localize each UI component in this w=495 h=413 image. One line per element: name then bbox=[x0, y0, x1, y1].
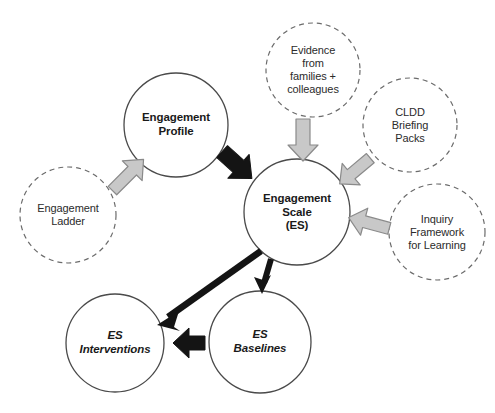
node-circle-es-interventions[interactable] bbox=[66, 294, 164, 392]
arrow-inquiry-to-scale bbox=[345, 204, 393, 242]
diagram-graphics bbox=[0, 0, 495, 413]
diagram-canvas: Engagement Profile Engagement Scale (ES)… bbox=[0, 0, 495, 413]
node-circle-es-baselines[interactable] bbox=[209, 291, 311, 393]
arrow-scale-to-baselines bbox=[254, 259, 271, 294]
arrow-baselines-to-interventions bbox=[173, 328, 205, 358]
node-circle-evidence-families-colleagues[interactable] bbox=[266, 23, 360, 117]
node-circle-engagement-scale[interactable] bbox=[244, 159, 350, 265]
node-circle-engagement-ladder[interactable] bbox=[20, 167, 116, 263]
node-circle-cldd-briefing-packs[interactable] bbox=[363, 78, 457, 172]
arrow-evidence-to-scale bbox=[288, 119, 318, 161]
node-circle-inquiry-framework-for-learning[interactable] bbox=[389, 184, 485, 280]
